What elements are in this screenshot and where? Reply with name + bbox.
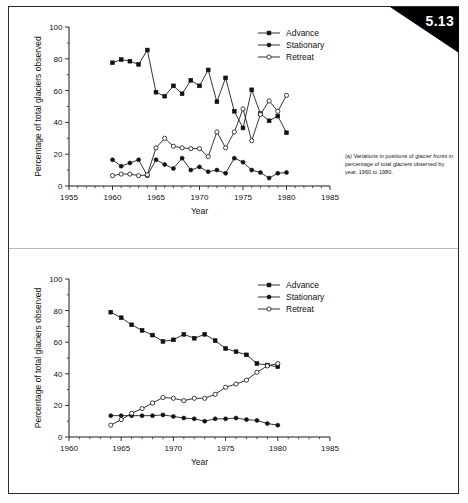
data-point <box>140 328 144 332</box>
data-point <box>111 61 115 65</box>
data-point <box>171 396 175 400</box>
x-tick-label-1960: 1960 <box>104 193 122 202</box>
data-point <box>215 130 219 134</box>
data-point <box>224 347 228 351</box>
data-point <box>171 167 175 171</box>
series-line-retreat <box>113 95 287 175</box>
data-point <box>154 90 158 94</box>
data-point <box>276 114 280 118</box>
caption-a: (a) Variations in positions of glacier f… <box>345 152 455 177</box>
data-point <box>137 174 141 178</box>
x-tick-label-1955: 1955 <box>60 193 78 202</box>
data-point <box>258 170 262 174</box>
data-point <box>137 62 141 66</box>
x-tick-label-1985: 1985 <box>321 444 339 453</box>
y-tick-label-60: 60 <box>54 338 63 347</box>
series-advance <box>109 310 280 368</box>
figure-page: 5.13 02040608010019551960196519701975198… <box>0 0 468 503</box>
data-point <box>119 418 123 422</box>
legend-label-retreat: Retreat <box>286 304 315 314</box>
data-point <box>189 168 193 172</box>
data-point <box>151 333 155 337</box>
y-tick-label-40: 40 <box>54 118 63 127</box>
data-point <box>163 94 167 98</box>
legend-label-retreat: Retreat <box>286 52 315 62</box>
data-point <box>213 392 217 396</box>
data-point <box>182 399 186 403</box>
data-point <box>224 385 228 389</box>
y-tick-label-100: 100 <box>49 275 63 284</box>
data-point <box>284 93 288 97</box>
data-point <box>182 332 186 336</box>
data-point <box>109 310 113 314</box>
data-point <box>241 126 245 130</box>
data-point <box>180 92 184 96</box>
chart-axes <box>69 279 330 437</box>
data-point <box>171 144 175 148</box>
data-point <box>258 112 262 116</box>
data-point <box>245 353 249 357</box>
data-point <box>119 172 123 176</box>
data-point <box>267 176 271 180</box>
data-point <box>172 338 176 342</box>
x-tick-label-1970: 1970 <box>165 444 183 453</box>
legend-label-advance: Advance <box>286 280 319 290</box>
data-point <box>172 84 176 88</box>
data-point <box>234 382 238 386</box>
y-tick-label-40: 40 <box>54 370 63 379</box>
data-point <box>232 109 236 113</box>
chart-b-svg: 020406080100196019651970197519801985Year… <box>0 251 468 503</box>
data-point <box>119 316 123 320</box>
y-tick-label-20: 20 <box>54 150 63 159</box>
y-tick-label-100: 100 <box>49 23 63 32</box>
data-point <box>128 161 132 165</box>
data-point <box>161 340 165 344</box>
data-point <box>151 414 155 418</box>
data-point <box>140 406 144 410</box>
x-tick-label-1975: 1975 <box>217 444 235 453</box>
legend-marker-square <box>267 283 271 287</box>
data-point <box>224 171 228 175</box>
data-point <box>161 413 165 417</box>
series-stationary <box>109 413 280 427</box>
data-point <box>213 417 217 421</box>
data-point <box>198 84 202 88</box>
data-point <box>145 173 149 177</box>
data-point <box>109 414 113 418</box>
data-point <box>189 78 193 82</box>
data-point <box>203 396 207 400</box>
chart-a-svg: 0204060801001955196019651970197519801985… <box>0 0 468 251</box>
data-point <box>150 401 154 405</box>
data-point <box>109 423 113 427</box>
data-point <box>241 160 245 164</box>
data-point <box>267 99 271 103</box>
legend-marker-open-circle <box>267 55 271 59</box>
chart-panel-a: 0204060801001955196019651970197519801985… <box>0 0 468 251</box>
data-point <box>161 395 165 399</box>
data-point <box>206 68 210 72</box>
data-point <box>224 417 228 421</box>
data-point <box>276 361 280 365</box>
chart-legend: AdvanceStationaryRetreat <box>258 28 325 62</box>
data-point <box>267 119 271 123</box>
legend-marker-circle <box>267 43 271 47</box>
legend-label-advance: Advance <box>286 28 319 38</box>
data-point <box>203 332 207 336</box>
data-point <box>192 336 196 340</box>
data-point <box>234 416 238 420</box>
data-point <box>276 109 280 113</box>
data-point <box>128 172 132 176</box>
data-point <box>111 158 115 162</box>
data-point <box>180 146 184 150</box>
x-tick-label-1970: 1970 <box>191 193 209 202</box>
y-tick-label-20: 20 <box>54 401 63 410</box>
data-point <box>145 48 149 52</box>
data-point <box>276 171 280 175</box>
data-point <box>192 396 196 400</box>
x-axis-title: Year <box>191 457 208 467</box>
data-point <box>180 156 184 160</box>
data-point <box>224 76 228 80</box>
series-advance <box>111 48 289 134</box>
data-point <box>206 170 210 174</box>
chart-panel-b: 020406080100196019651970197519801985Year… <box>0 251 468 503</box>
